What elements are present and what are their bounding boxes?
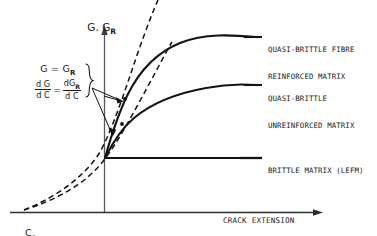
label-quasi-brittle-unreinforced: QUASI-BRITTLE UNREINFORCED MATRIX (268, 75, 354, 149)
figure-root: G. GR CRACK EXTENSION Co G = GR d G d C … (0, 0, 377, 236)
condition-formula-block: G = GR d G d C = dGR d C (22, 63, 94, 101)
tangency-point-upper (123, 97, 127, 101)
label-brittle-matrix-lefm: BRITTLE MATRIX (LEFM) (268, 147, 364, 193)
derivative-right-numerator-text: dG (64, 78, 76, 88)
x-axis-title: CRACK EXTENSION (223, 216, 295, 225)
label-unreinforced-line1: QUASI-BRITTLE (268, 94, 354, 103)
condition-equation-top-text: G = G (40, 63, 70, 74)
y-axis-title-subscript: R (110, 27, 116, 36)
origin-marker-label: Co (13, 215, 36, 236)
x-axis-arrowhead (313, 209, 323, 216)
derivative-equals-sign: = (51, 85, 63, 95)
curve-label-leaders (240, 37, 262, 158)
y-axis-title-text: G. G (87, 21, 110, 33)
condition-equation-derivative: d G d C = dGR d C (22, 78, 94, 101)
condition-equation-top-subscript: R (70, 69, 76, 77)
derivative-fraction-right: dGR d C (63, 78, 81, 101)
origin-marker-subscript: o (32, 233, 36, 236)
label-fibre-reinforced-line1: QUASI-BRITTLE FIBRE (268, 45, 354, 54)
curve-quasi-brittle-fibre-reinforced (105, 35, 255, 158)
derivative-fraction-left: d G d C (35, 79, 51, 100)
label-brittle-lefm-line1: BRITTLE MATRIX (LEFM) (268, 166, 364, 175)
condition-equation-top: G = GR (22, 63, 94, 77)
derivative-left-numerator: d G (35, 79, 51, 90)
derivative-right-numerator: dGR (63, 78, 81, 91)
y-axis-title: G. GR (74, 8, 116, 50)
derivative-right-numerator-subscript: R (75, 83, 80, 90)
derivative-right-denominator: d C (63, 91, 81, 101)
label-unreinforced-line2: UNREINFORCED MATRIX (268, 121, 354, 130)
origin-marker-text: C (25, 227, 32, 236)
tangency-point-lower (120, 122, 124, 126)
resistance-curves (105, 35, 258, 158)
derivative-left-denominator: d C (35, 90, 51, 100)
